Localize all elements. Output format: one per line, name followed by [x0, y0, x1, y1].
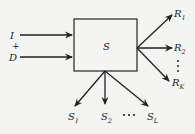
- input-plus: +: [12, 41, 20, 51]
- input-label-I: I: [9, 30, 15, 41]
- output-arrow-RK: [137, 48, 169, 81]
- block-label: S: [103, 41, 110, 52]
- input-I: I: [9, 30, 72, 41]
- system-diagram: I + D S R1 R2 RK S1 S2 SL: [0, 0, 195, 134]
- bottom-ellipsis: [123, 114, 135, 116]
- output-label-S1: S1: [68, 111, 79, 125]
- output-arrow-S1: [75, 71, 105, 106]
- input-label-D: D: [8, 52, 17, 63]
- output-label-R1: R1: [173, 8, 186, 22]
- output-arrow-R1: [137, 15, 172, 48]
- output-arrow-SL: [105, 71, 148, 106]
- output-label-RK: RK: [171, 77, 186, 91]
- right-ellipsis: [177, 60, 179, 72]
- output-label-SL: SL: [147, 111, 158, 125]
- output-label-S2: S2: [101, 111, 112, 125]
- input-D: D: [8, 52, 72, 63]
- output-label-R2: R2: [173, 42, 186, 56]
